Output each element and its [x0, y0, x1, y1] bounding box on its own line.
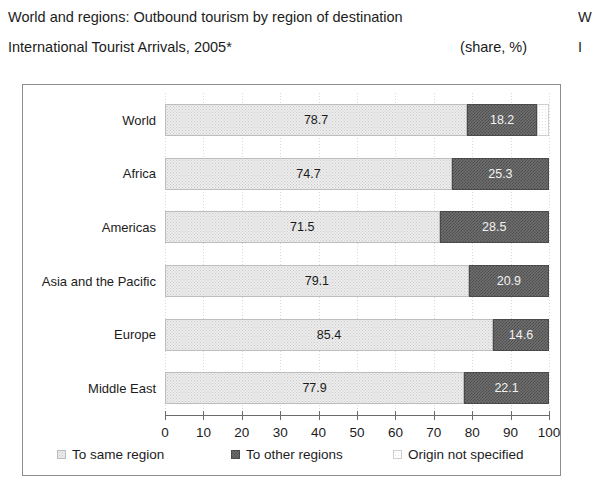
axis-tick: [319, 411, 320, 420]
category-label: Asia and the Pacific: [42, 273, 156, 288]
axis-tick: [549, 411, 550, 420]
bar-value-label: 79.1: [305, 275, 329, 288]
bar-segment: 74.7: [165, 158, 452, 190]
bar-segment: 28.5: [440, 211, 549, 243]
bar-segment: 71.5: [165, 211, 440, 243]
bar-row: Middle East77.922.1: [165, 361, 549, 415]
bar-segment: 22.1: [464, 372, 549, 404]
legend-label: To other regions: [246, 447, 343, 462]
bar-value-label: 77.9: [302, 382, 326, 395]
axis-tick: [434, 411, 435, 420]
legend-item: Origin not specified: [393, 447, 524, 462]
adjacent-title-fragment-1: W: [578, 2, 596, 32]
legend-label: To same region: [72, 447, 164, 462]
bar-row: Americas71.528.5: [165, 200, 549, 254]
adjacent-title-fragment-2: I: [578, 32, 596, 62]
legend-label: Origin not specified: [408, 447, 524, 462]
bar-segment: 25.3: [452, 158, 549, 190]
bar-value-label: 20.9: [497, 275, 521, 288]
adjacent-chart-bleed: W I: [578, 2, 596, 62]
x-axis: 0102030405060708090100: [165, 415, 549, 416]
bar-segment: [537, 104, 549, 136]
axis-tick: [242, 411, 243, 420]
bar-segment: 77.9: [165, 372, 464, 404]
axis-tick-label: 60: [388, 425, 403, 440]
axis-tick: [203, 411, 204, 420]
chart-heading: World and regions: Outbound tourism by r…: [8, 2, 564, 62]
chart-subtitle-row: International Tourist Arrivals, 2005* (s…: [8, 32, 527, 62]
legend-item: To same region: [57, 447, 164, 462]
axis-tick: [280, 411, 281, 420]
axis-tick-label: 20: [234, 425, 249, 440]
axis-tick-label: 50: [349, 425, 364, 440]
axis-tick-label: 100: [538, 425, 561, 440]
bar-row: Asia and the Pacific79.120.9: [165, 254, 549, 308]
bar-segment: 85.4: [165, 319, 493, 351]
axis-tick-label: 0: [161, 425, 169, 440]
category-label: Americas: [102, 220, 156, 235]
axis-tick: [165, 411, 166, 420]
bar-segment: 78.7: [165, 104, 467, 136]
legend-swatch-light-stipple-icon: [57, 450, 66, 459]
category-label: Europe: [114, 327, 156, 342]
bar-value-label: 78.7: [304, 114, 328, 127]
chart-unit-label: (share, %): [460, 39, 527, 55]
axis-tick: [357, 411, 358, 420]
bar-value-label: 74.7: [296, 167, 320, 180]
axis-tick: [472, 411, 473, 420]
bar-row: Africa74.725.3: [165, 147, 549, 201]
category-label: Africa: [123, 166, 156, 181]
bar-value-label: 14.6: [509, 328, 533, 341]
bar-segment: 20.9: [469, 265, 549, 297]
bar-value-label: 28.5: [482, 221, 506, 234]
bar-row: Europe85.414.6: [165, 308, 549, 362]
axis-tick: [395, 411, 396, 420]
chart-title: World and regions: Outbound tourism by r…: [8, 2, 564, 32]
chart-subtitle: International Tourist Arrivals, 2005*: [8, 32, 232, 62]
legend-swatch-white-outline-icon: [393, 450, 402, 459]
legend-swatch-dark-checker-icon: [231, 450, 240, 459]
bar-segment: 14.6: [493, 319, 549, 351]
gridline: [549, 93, 550, 415]
bars-container: World78.718.2Africa74.725.3Americas71.52…: [165, 93, 549, 415]
chart-legend: To same regionTo other regionsOrigin not…: [23, 447, 560, 469]
category-label: World: [122, 112, 156, 127]
bar-value-label: 22.1: [494, 382, 518, 395]
axis-tick-label: 90: [503, 425, 518, 440]
bar-segment: 18.2: [467, 104, 537, 136]
bar-value-label: 25.3: [488, 167, 512, 180]
legend-item: To other regions: [231, 447, 343, 462]
bar-segment: 79.1: [165, 265, 469, 297]
chart-plot-area: World78.718.2Africa74.725.3Americas71.52…: [22, 84, 561, 476]
axis-tick-label: 40: [311, 425, 326, 440]
axis-tick-label: 10: [196, 425, 211, 440]
axis-tick-label: 80: [465, 425, 480, 440]
bar-value-label: 85.4: [317, 328, 341, 341]
axis-tick-label: 70: [426, 425, 441, 440]
category-label: Middle East: [88, 381, 156, 396]
axis-tick-label: 30: [273, 425, 288, 440]
axis-tick: [511, 411, 512, 420]
bar-value-label: 18.2: [490, 114, 514, 127]
bar-row: World78.718.2: [165, 93, 549, 147]
bar-value-label: 71.5: [290, 221, 314, 234]
